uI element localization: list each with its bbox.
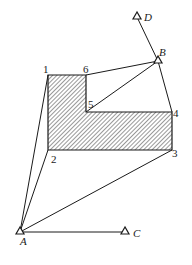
station-C-triangle-icon [121,227,129,234]
line-A-1 [20,75,48,232]
diagram-canvas: A B C D 1 2 3 4 5 6 [0,0,192,265]
line-A-3 [20,150,172,232]
label-corner-2: 2 [51,153,57,165]
label-corner-5: 5 [88,98,94,110]
label-D: D [143,11,152,23]
station-D-triangle-icon [133,12,141,19]
label-corner-1: 1 [43,63,49,75]
label-C: C [133,227,141,239]
label-corner-3: 3 [172,147,178,159]
line-B-5 [86,61,158,112]
label-B: B [159,46,166,58]
building-outline [48,75,172,150]
line-B-6 [86,61,158,75]
label-corner-6: 6 [83,63,89,75]
label-corner-4: 4 [173,107,179,119]
line-B-D [137,17,158,61]
label-A: A [19,235,27,247]
line-B-4 [158,61,172,112]
survey-diagram: A B C D 1 2 3 4 5 6 [0,0,192,265]
